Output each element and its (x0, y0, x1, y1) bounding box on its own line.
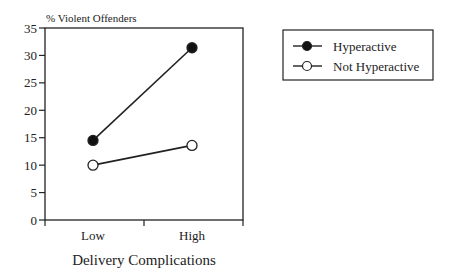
y-tick-label: 5 (31, 185, 38, 200)
plot-frame (45, 28, 243, 220)
x-tick-label: Low (81, 228, 105, 243)
data-point (88, 135, 98, 145)
y-tick-label: 20 (24, 103, 37, 118)
y-tick-label: 35 (24, 21, 37, 36)
legend-label: Hyperactive (333, 39, 397, 54)
legend: HyperactiveNot Hyperactive (283, 30, 433, 80)
series-line-not-hyperactive (93, 145, 192, 165)
data-point (187, 43, 197, 53)
line-chart: % Violent Offenders 05101520253035 LowHi… (0, 0, 452, 279)
x-axis-title: Delivery Complications (72, 252, 216, 268)
legend-marker (303, 62, 312, 71)
series-line-hyperactive (93, 48, 192, 141)
y-tick-label: 0 (31, 213, 38, 228)
y-axis-title: % Violent Offenders (46, 12, 137, 24)
data-point (88, 160, 98, 170)
y-tick-label: 15 (24, 130, 37, 145)
y-tick-label: 25 (24, 75, 37, 90)
legend-marker (303, 42, 312, 51)
legend-label: Not Hyperactive (333, 59, 420, 74)
x-tick-label: High (179, 228, 206, 243)
data-point (187, 140, 197, 150)
y-tick-label: 30 (24, 48, 37, 63)
y-tick-label: 10 (24, 158, 37, 173)
